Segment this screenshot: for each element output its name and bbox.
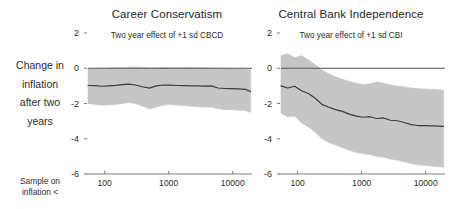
confidence-band xyxy=(88,67,251,112)
panel-plot-1: 20-2-4-6100100010000 xyxy=(264,28,445,188)
panel-plot-0: 20-2-4-6100100010000 xyxy=(71,28,252,188)
y-tick-label: -4 xyxy=(71,134,79,144)
x-tick-label: 100 xyxy=(97,178,112,188)
x-tick-label: 10000 xyxy=(221,178,245,188)
y-tick-label: -6 xyxy=(71,169,79,179)
y-tick-label: 0 xyxy=(267,63,272,73)
figure-root: Change in inflation after two years Samp… xyxy=(0,0,455,209)
y-tick-label: -2 xyxy=(264,99,272,109)
x-tick-label: 1000 xyxy=(352,178,371,188)
y-tick-label: -4 xyxy=(264,134,272,144)
y-tick-label: -6 xyxy=(264,169,272,179)
y-tick-label: 2 xyxy=(267,28,272,38)
y-tick-label: 0 xyxy=(74,63,79,73)
y-tick-label: -2 xyxy=(71,99,79,109)
plot-canvas: 20-2-4-610010001000020-2-4-6100100010000 xyxy=(0,0,455,209)
confidence-band xyxy=(281,54,444,168)
x-tick-label: 100 xyxy=(290,178,305,188)
x-tick-label: 10000 xyxy=(414,178,438,188)
y-tick-label: 2 xyxy=(74,28,79,38)
x-tick-label: 1000 xyxy=(159,178,178,188)
